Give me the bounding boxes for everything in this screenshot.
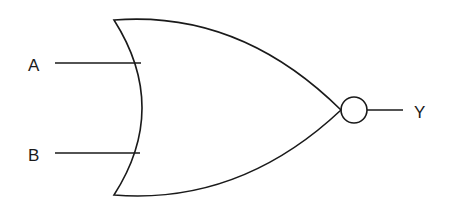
input-a-label: A <box>28 56 40 75</box>
gate-body <box>114 19 341 196</box>
input-b-label: B <box>28 146 39 165</box>
inversion-bubble <box>341 97 367 123</box>
output-y-label: Y <box>414 103 425 122</box>
nor-gate-diagram: A B Y <box>0 0 461 215</box>
